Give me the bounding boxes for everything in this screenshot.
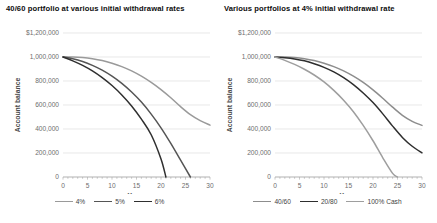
legend-label: 40/60 (274, 198, 291, 205)
chart-panel-left: 40/60 portfolio at various initial withd… (0, 0, 219, 223)
legend-label: 4% (76, 198, 86, 205)
x-tick-label: 0 (61, 182, 65, 189)
figure-container: 40/60 portfolio at various initial withd… (0, 0, 437, 223)
chart-title-left: 40/60 portfolio at various initial withd… (6, 4, 217, 13)
chart-panel-right: Various portfolios at 4% initial withdra… (218, 0, 437, 223)
x-tick-label: 30 (418, 182, 426, 189)
y-tick-label: 800,000 (35, 77, 59, 84)
legend-item[interactable]: 40/60 (253, 198, 291, 205)
chart-title-right: Various portfolios at 4% initial withdra… (224, 4, 435, 13)
legend-label: 5% (115, 198, 125, 205)
y-tick-label: 0 (267, 173, 271, 180)
x-tick-label: 25 (182, 182, 190, 189)
x-tick-label: 20 (157, 182, 165, 189)
legend-item[interactable]: 4% (55, 198, 86, 205)
y-tick-label: 1,000,000 (30, 53, 60, 60)
legend-swatch-icon (55, 201, 73, 203)
legend-swatch-icon (134, 201, 152, 203)
y-tick-label: 0 (55, 173, 59, 180)
y-axis-title: Account balance (14, 78, 21, 133)
x-tick-label: 10 (320, 182, 328, 189)
y-tick-label: 200,000 (247, 149, 271, 156)
x-tick-label: 10 (108, 182, 116, 189)
y-tick-label: 200,000 (35, 149, 59, 156)
y-tick-label: 800,000 (247, 77, 271, 84)
series-line (275, 57, 398, 177)
legend-swatch-icon (253, 201, 271, 203)
legend-label: 20/80 (321, 198, 338, 205)
chart-plot-left: 0200,000400,000600,000800,0001,000,000$1… (0, 16, 219, 194)
y-tick-label: $1,200,000 (26, 29, 59, 36)
series-line (63, 57, 190, 177)
legend-label: 6% (155, 198, 165, 205)
y-tick-label: 600,000 (35, 101, 59, 108)
x-tick-label: 5 (86, 182, 90, 189)
legend-item[interactable]: 6% (134, 198, 165, 205)
x-tick-label: 25 (394, 182, 402, 189)
y-tick-label: 600,000 (247, 101, 271, 108)
chart-legend-left: 4%5%6% (0, 198, 219, 205)
x-tick-label: 0 (273, 182, 277, 189)
legend-item[interactable]: 20/80 (300, 198, 338, 205)
x-tick-label: 15 (133, 182, 141, 189)
x-axis-title: Years (339, 192, 357, 194)
y-tick-label: 400,000 (35, 125, 59, 132)
y-tick-label: $1,200,000 (238, 29, 271, 36)
y-axis-title: Account balance (226, 78, 233, 133)
chart-plot-right: 0200,000400,000600,000800,0001,000,000$1… (218, 16, 437, 194)
series-line (275, 57, 422, 125)
legend-item[interactable]: 100% Cash (346, 198, 401, 205)
legend-swatch-icon (94, 201, 112, 203)
x-axis-title: Years (127, 192, 145, 194)
chart-legend-right: 40/6020/80100% Cash (218, 198, 437, 205)
legend-swatch-icon (346, 201, 364, 203)
x-tick-label: 30 (206, 182, 214, 189)
y-tick-label: 1,000,000 (242, 53, 272, 60)
legend-swatch-icon (300, 201, 318, 203)
x-tick-label: 15 (345, 182, 353, 189)
x-tick-label: 5 (298, 182, 302, 189)
y-tick-label: 400,000 (247, 125, 271, 132)
legend-item[interactable]: 5% (94, 198, 125, 205)
series-line (63, 57, 166, 177)
x-tick-label: 20 (369, 182, 377, 189)
legend-label: 100% Cash (367, 198, 401, 205)
